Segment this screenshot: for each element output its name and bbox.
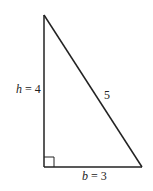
height-equals: =	[22, 82, 35, 96]
right-triangle-diagram: h = 4 5 b = 3	[0, 0, 153, 191]
hypotenuse-side	[44, 15, 142, 167]
height-label: h = 4	[16, 82, 41, 96]
base-label: b = 3	[82, 169, 107, 183]
hypotenuse-label: 5	[104, 88, 110, 102]
base-equals: =	[88, 169, 101, 183]
base-value: 3	[101, 169, 107, 183]
height-value: 4	[35, 82, 41, 96]
right-angle-marker	[44, 157, 54, 167]
